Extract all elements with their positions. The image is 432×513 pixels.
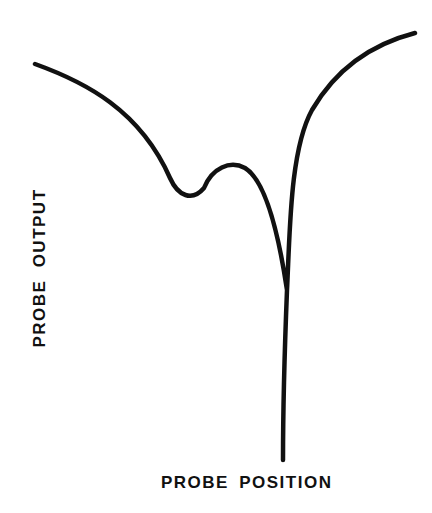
y-axis-label: PROBE OUTPUT [30,188,50,347]
x-axis-label: PROBE POSITION [161,473,332,493]
plot-area [0,0,432,513]
chart-figure: PROBE OUTPUT PROBE POSITION [0,0,432,513]
probe-output-curve [35,33,415,460]
